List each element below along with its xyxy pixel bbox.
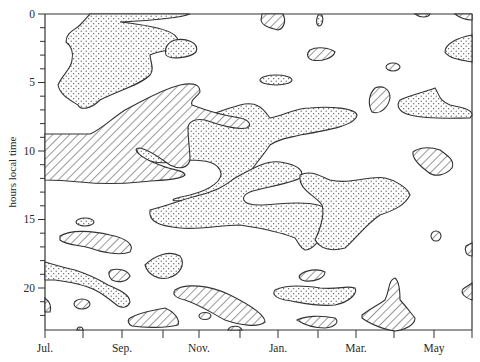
y-tick-5: 5 xyxy=(29,76,35,88)
y-tick-20: 20 xyxy=(24,282,36,294)
y-tick-10: 10 xyxy=(24,145,36,157)
chart-canvas: 0 5 10 15 20 hours local time Jul. Sep. … xyxy=(0,0,480,362)
x-tick-mar: Mar. xyxy=(345,342,367,354)
y-axis: 0 5 10 15 20 hours local time xyxy=(6,8,45,315)
x-tick-sep: Sep. xyxy=(112,342,132,355)
x-tick-jul: Jul. xyxy=(37,342,53,354)
y-tick-15: 15 xyxy=(24,213,36,225)
y-tick-0: 0 xyxy=(29,8,35,20)
x-tick-jan: Jan. xyxy=(269,342,287,354)
y-axis-label: hours local time xyxy=(6,136,18,207)
x-tick-nov: Nov. xyxy=(188,342,210,354)
x-axis: Jul. Sep. Nov. Jan. Mar. May xyxy=(37,330,472,355)
x-tick-may: May xyxy=(423,342,444,355)
